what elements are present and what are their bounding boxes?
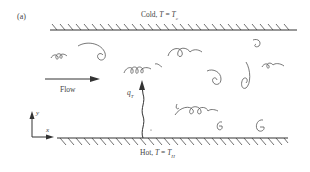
panel-label: (a) bbox=[17, 12, 26, 21]
hot-wall-label: Hot, T = TH bbox=[140, 148, 175, 159]
heat-flux-arrow bbox=[139, 80, 152, 138]
coordinate-axes bbox=[30, 111, 55, 140]
y-axis-label: y bbox=[36, 109, 39, 117]
flow-arrow bbox=[45, 76, 100, 82]
flow-label: Flow bbox=[60, 85, 75, 94]
turbulent-eddies bbox=[51, 39, 284, 131]
heat-flux-subscript: T bbox=[131, 94, 134, 99]
bottom-wall bbox=[57, 138, 288, 145]
hot-label-prefix: Hot, bbox=[140, 148, 155, 157]
cold-wall-label: Cold, T = Tc bbox=[141, 10, 178, 21]
cold-label-subscript: c bbox=[176, 16, 178, 21]
heat-flux-label: qT bbox=[127, 88, 134, 99]
cold-label-eq: = bbox=[164, 10, 172, 19]
hot-label-subscript: H bbox=[171, 154, 175, 159]
hot-label-eq: = bbox=[159, 148, 167, 157]
cold-label-prefix: Cold, bbox=[141, 10, 159, 19]
x-axis-label: x bbox=[46, 126, 49, 134]
top-wall bbox=[50, 24, 297, 30]
turbulent-channel-diagram bbox=[0, 0, 310, 172]
